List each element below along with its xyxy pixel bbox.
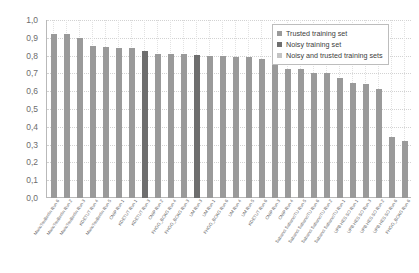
bar: [259, 59, 265, 198]
bar: [389, 137, 395, 198]
bar: [51, 34, 57, 198]
legend-swatch-icon: [277, 31, 282, 36]
y-axis-tick-label: 0,9: [26, 34, 38, 43]
bar: [363, 84, 369, 198]
bar: [220, 56, 226, 198]
bar: [194, 55, 200, 198]
bar: [350, 83, 356, 198]
legend-item: Trusted training set: [277, 28, 383, 39]
bar: [142, 51, 148, 198]
y-axis-tick-label: 0,8: [26, 51, 38, 60]
legend-swatch-icon: [277, 53, 282, 58]
bar: [129, 48, 135, 198]
bar: [402, 141, 408, 198]
chart-legend: Trusted training setNoisy training setNo…: [272, 24, 389, 65]
bar: [246, 57, 252, 198]
bar: [311, 73, 317, 198]
bar-chart: 0,00,10,20,30,40,50,60,70,80,91,0 MarioT…: [0, 0, 419, 273]
y-axis-tick-label: 0,5: [26, 105, 38, 114]
y-axis-tick-label: 0,3: [26, 140, 38, 149]
bar: [181, 54, 187, 198]
bar: [337, 78, 343, 198]
y-axis-tick-label: 0,1: [26, 176, 38, 185]
bar: [64, 34, 70, 198]
legend-item-label: Noisy and trusted training sets: [286, 52, 383, 59]
bar: [103, 47, 109, 198]
bar: [298, 69, 304, 198]
bar: [90, 46, 96, 198]
legend-item: Noisy and trusted training sets: [277, 50, 383, 61]
bar: [272, 62, 278, 198]
legend-item: Noisy training set: [277, 39, 383, 50]
bar: [233, 57, 239, 199]
y-axis-tick-label: 1,0: [26, 16, 38, 25]
x-axis: MarioTsuBerlin Run 6MarioTsuBerlin Run 2…: [47, 199, 411, 273]
legend-swatch-icon: [277, 42, 282, 47]
bar: [77, 38, 83, 198]
y-axis-tick-label: 0,7: [26, 69, 38, 78]
bar: [168, 54, 174, 198]
legend-item-label: Noisy training set: [286, 41, 341, 48]
bar: [207, 56, 213, 198]
bar: [116, 48, 122, 198]
bar: [376, 89, 382, 198]
y-axis-tick-label: 0,2: [26, 158, 38, 167]
y-axis: 0,00,10,20,30,40,50,60,70,80,91,0: [0, 20, 42, 198]
bar: [285, 69, 291, 198]
bar: [155, 54, 161, 198]
y-axis-tick-label: 0,0: [26, 194, 38, 203]
legend-item-label: Trusted training set: [286, 30, 347, 37]
y-axis-tick-label: 0,6: [26, 87, 38, 96]
bar: [324, 73, 330, 198]
y-axis-tick-label: 0,4: [26, 123, 38, 132]
